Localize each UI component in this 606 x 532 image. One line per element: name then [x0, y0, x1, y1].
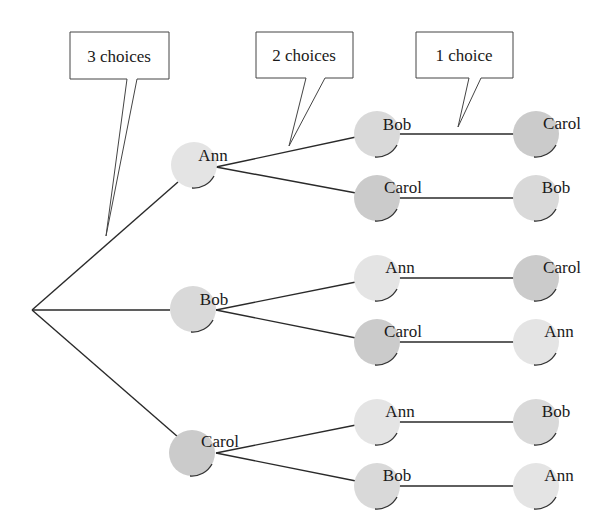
node-level3-carol: Carol — [513, 111, 581, 157]
node-label: Bob — [542, 402, 570, 421]
callout-label: 2 choices — [272, 46, 336, 65]
node-level3-ann: Ann — [513, 319, 574, 365]
level1-edges — [216, 137, 356, 481]
node-label: Carol — [201, 432, 239, 451]
node-level3-carol: Carol — [513, 255, 581, 301]
node-level3-bob: Bob — [513, 399, 570, 445]
node-level3-ann: Ann — [513, 463, 574, 509]
node-label: Bob — [383, 466, 411, 485]
callout-1-choice: 1 choice — [416, 32, 513, 127]
root-edges — [32, 182, 178, 437]
node-label: Ann — [544, 466, 574, 485]
node-label: Carol — [543, 114, 581, 133]
node-label: Ann — [544, 322, 574, 341]
tree-diagram: 3 choices 2 choices 1 choice Ann Bob Car… — [0, 0, 606, 532]
node-label: Bob — [542, 178, 570, 197]
callout-2-choices: 2 choices — [256, 32, 353, 146]
node-label: Ann — [385, 402, 415, 421]
callout-3-choices: 3 choices — [70, 32, 169, 236]
node-label: Bob — [383, 115, 411, 134]
node-label: Bob — [200, 290, 228, 309]
node-level3-bob: Bob — [513, 175, 570, 221]
node-level1-ann: Ann — [171, 142, 228, 188]
callout-label: 3 choices — [87, 47, 151, 66]
node-label: Carol — [543, 258, 581, 277]
node-level1-carol: Carol — [169, 430, 239, 476]
node-label: Ann — [198, 146, 228, 165]
node-label: Carol — [384, 322, 422, 341]
callout-label: 1 choice — [435, 46, 492, 65]
node-label: Carol — [384, 178, 422, 197]
node-label: Ann — [385, 258, 415, 277]
